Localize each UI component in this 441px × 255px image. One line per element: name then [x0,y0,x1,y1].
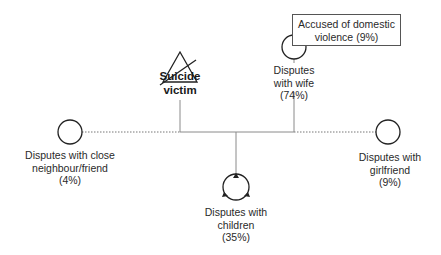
neighbour-line2: neighbour/friend [8,162,132,175]
wife-line1: Disputes [259,64,329,77]
wife-pct: (74%) [259,89,329,102]
neighbour-circle [58,120,82,144]
wife-line2: with wife [259,77,329,90]
victim-line1: Suicide [145,69,215,83]
victim-line2: victim [145,83,215,97]
annotation-line1: Accused of domestic [293,18,400,31]
suicide-victim-label: Suicide victim [145,69,215,97]
girlfriend-line1: Disputes with [348,151,432,164]
children-line1: Disputes with [186,206,286,219]
girlfriend-circle [376,120,400,144]
children-pct: (35%) [186,231,286,244]
children-label: Disputes with children (35%) [186,206,286,244]
neighbour-line1: Disputes with close [8,149,132,162]
children-line2: children [186,219,286,232]
wife-label: Disputes with wife (74%) [259,64,329,102]
neighbour-label: Disputes with close neighbour/friend (4%… [8,149,132,187]
annotation-line2: violence (9%) [293,31,400,44]
girlfriend-line2: girlfriend [348,164,432,177]
domestic-violence-annotation: Accused of domestic violence (9%) [292,14,401,46]
girlfriend-label: Disputes with girlfriend (9%) [348,151,432,189]
neighbour-pct: (4%) [8,174,132,187]
girlfriend-pct: (9%) [348,176,432,189]
children-symbol [222,173,250,200]
